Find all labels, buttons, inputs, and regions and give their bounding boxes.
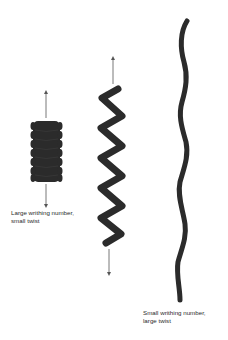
right-caption: Small writhing number, large twist [143,309,206,326]
right-wavy-structure [177,21,187,300]
left-caption-line1: Large writhing number, [11,209,74,217]
right-wavy-strand [177,21,187,300]
left-coiled-structure [31,92,63,206]
middle-helix-strand [101,89,122,243]
middle-helix-structure [101,58,122,274]
left-caption-line2: small twist [11,217,74,225]
supercoiling-diagram [0,0,228,340]
right-caption-line1: Small writhing number, [143,309,206,317]
left-coil-body [33,121,60,182]
right-caption-line2: large twist [143,317,206,325]
left-caption: Large writhing number, small twist [11,209,74,226]
